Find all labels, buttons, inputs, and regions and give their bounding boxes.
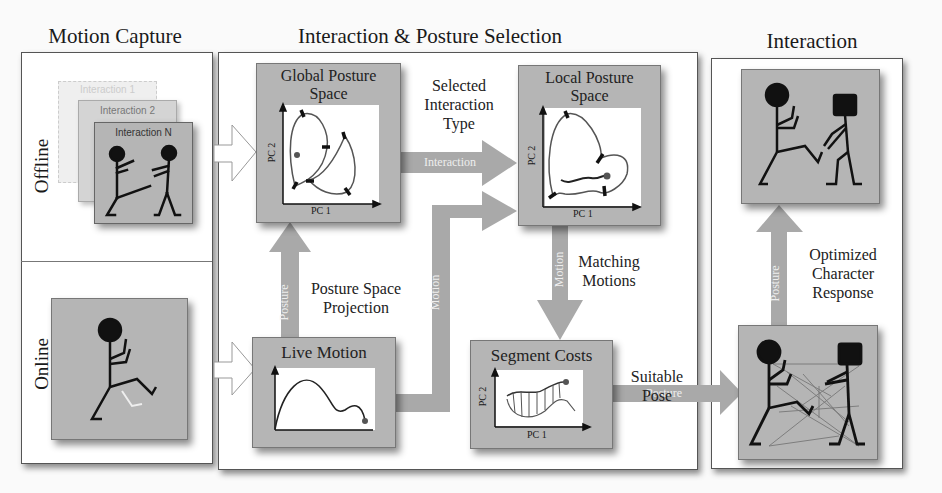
- section-title-motion-capture: Motion Capture: [48, 24, 182, 49]
- caption-line: Optimized: [809, 245, 877, 264]
- suitable-pose-caption: Suitable Pose: [631, 367, 683, 405]
- caption-line: Character: [809, 264, 877, 283]
- offline-online-divider: [21, 261, 212, 262]
- kicking-figure-icon: [52, 299, 187, 439]
- interaction-result-box: [741, 69, 880, 204]
- global-x-axis-label: PC 1: [311, 205, 331, 216]
- local-posture-plot: [519, 66, 660, 225]
- offline-label: Offline: [31, 136, 53, 196]
- selected-interaction-type-caption: Selected Interaction Type: [424, 76, 493, 133]
- caption-line: Interaction: [424, 95, 493, 114]
- online-label: Online: [31, 334, 53, 394]
- kick-interaction-figure-icon: [742, 70, 879, 203]
- card-1-label: Interaction 1: [59, 84, 156, 95]
- posture-up-right-arrow-label: Posture: [768, 266, 783, 302]
- section-title-selection: Interaction & Posture Selection: [298, 24, 562, 49]
- constraint-figure-icon: [739, 326, 877, 459]
- caption-line: Motions: [578, 271, 639, 290]
- live-motion-plot: [253, 338, 395, 447]
- caption-line: Type: [424, 114, 493, 133]
- motion-down-arrow-label: Motion: [552, 252, 567, 287]
- caption-line: Selected: [424, 76, 493, 95]
- caption-line: Matching: [578, 252, 639, 271]
- global-posture-space-box: Global Posture Space PC 1 PC 2: [256, 63, 401, 223]
- card-2-label: Interaction 2: [79, 105, 176, 116]
- caption-line: Suitable: [631, 367, 683, 386]
- local-x-axis-label: PC 1: [573, 208, 593, 219]
- local-posture-space-box: Local Posture Space PC 1 PC 2: [518, 65, 661, 226]
- online-capture-box: [51, 298, 188, 440]
- segment-y-axis-label: PC 2: [477, 387, 488, 407]
- local-y-axis-label: PC 2: [526, 146, 537, 166]
- caption-line: Projection: [311, 298, 401, 317]
- posture-up-arrow-label: Posture: [277, 285, 292, 321]
- caption-line: Posture Space: [311, 279, 401, 298]
- optimized-response-caption: Optimized Character Response: [809, 245, 877, 302]
- section-title-interaction: Interaction: [767, 29, 858, 54]
- caption-line: Response: [809, 283, 877, 302]
- interaction-card-n: Interaction N: [94, 122, 193, 224]
- live-motion-box: Live Motion: [252, 337, 396, 448]
- two-fighters-figure-icon: [95, 123, 192, 223]
- segment-costs-box: Segment Costs PC 1 PC 2: [470, 340, 613, 449]
- segment-x-axis-label: PC 1: [527, 429, 547, 440]
- motion-up-arrow-label: Motion: [428, 275, 443, 310]
- posture-space-projection-caption: Posture Space Projection: [311, 279, 401, 317]
- caption-line: Pose: [631, 386, 683, 405]
- interaction-arrow-label: Interaction: [424, 155, 476, 170]
- matching-motions-caption: Matching Motions: [578, 252, 639, 290]
- character-response-box: [738, 325, 878, 460]
- global-y-axis-label: PC 2: [266, 143, 277, 163]
- global-posture-plot: [257, 64, 400, 222]
